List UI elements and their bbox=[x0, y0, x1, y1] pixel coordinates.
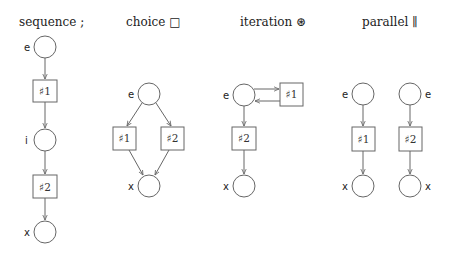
place-label: e bbox=[128, 89, 134, 100]
transition-label: ♯1 bbox=[286, 88, 298, 100]
panel-parallel: parallel ∥ e x e x ♯1 ♯2 bbox=[342, 15, 431, 197]
transition-label: ♯2 bbox=[238, 132, 250, 144]
place-label: e bbox=[223, 90, 229, 101]
panel-choice: choice □ e x ♯1 ♯2 bbox=[113, 15, 184, 197]
place-e bbox=[399, 83, 421, 105]
place-label: e bbox=[425, 89, 431, 100]
place-x bbox=[352, 175, 374, 197]
transition-label: ♯2 bbox=[405, 133, 417, 145]
arc bbox=[127, 103, 142, 126]
title-parallel: parallel ∥ bbox=[362, 15, 418, 29]
place-x bbox=[34, 221, 56, 243]
place-label: x bbox=[425, 181, 431, 192]
title-iteration: iteration ⊛ bbox=[240, 15, 306, 29]
arc bbox=[155, 150, 169, 175]
transition-label: ♯1 bbox=[119, 132, 131, 144]
petri-net-diagram: sequence ; e i x ♯1 ♯2 choice □ e x ♯1 ♯… bbox=[0, 0, 451, 255]
place-x bbox=[399, 175, 421, 197]
title-sequence: sequence ; bbox=[19, 15, 84, 29]
place-label: i bbox=[25, 135, 28, 146]
transition-label: ♯1 bbox=[39, 85, 51, 97]
place-label: x bbox=[223, 181, 229, 192]
arc bbox=[129, 150, 143, 175]
place-e bbox=[233, 84, 255, 106]
place-e bbox=[352, 83, 374, 105]
panel-sequence: sequence ; e i x ♯1 ♯2 bbox=[19, 15, 84, 243]
place-label: e bbox=[342, 89, 348, 100]
title-choice: choice □ bbox=[126, 15, 181, 29]
place-label: x bbox=[24, 227, 30, 238]
place-e bbox=[138, 83, 160, 105]
transition-label: ♯2 bbox=[167, 132, 179, 144]
place-i bbox=[34, 129, 56, 151]
place-e bbox=[34, 36, 56, 58]
place-label: e bbox=[24, 42, 30, 53]
transition-label: ♯2 bbox=[39, 181, 51, 193]
place-label: x bbox=[128, 181, 134, 192]
place-label: x bbox=[342, 181, 348, 192]
place-x bbox=[233, 175, 255, 197]
transition-label: ♯1 bbox=[358, 133, 370, 145]
panel-iteration: iteration ⊛ e x ♯1 ♯2 bbox=[223, 15, 306, 197]
place-x bbox=[138, 175, 160, 197]
arc bbox=[156, 103, 171, 126]
